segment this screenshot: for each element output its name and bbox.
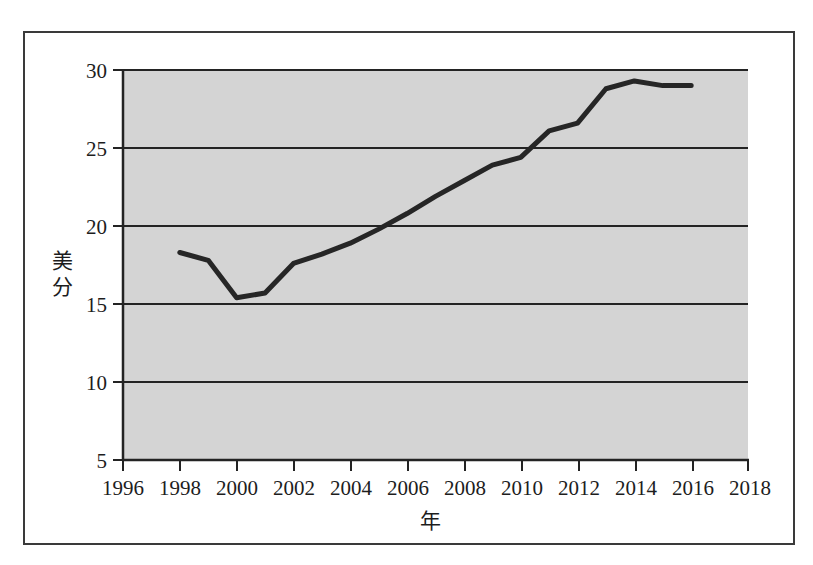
y-axis-title-char-1: 美 [52, 249, 73, 273]
y-axis-title: 美 分 [52, 249, 73, 299]
x-tick-label-2006: 2006 [387, 476, 429, 500]
y-tick-label-25: 25 [86, 137, 107, 161]
x-axis-tick-labels: 1996 1998 2000 2002 2004 2006 2008 2010 … [102, 476, 771, 500]
x-tick-label-2000: 2000 [216, 476, 258, 500]
line-chart: 30 25 20 15 10 5 1996 1998 2000 2002 200… [0, 0, 813, 565]
x-tick-label-2014: 2014 [615, 476, 658, 500]
x-axis-title: 年 [420, 509, 441, 533]
x-axis-ticks [123, 460, 748, 471]
y-tick-label-30: 30 [86, 59, 107, 83]
chart-figure: 30 25 20 15 10 5 1996 1998 2000 2002 200… [0, 0, 813, 565]
x-tick-label-2010: 2010 [501, 476, 543, 500]
x-tick-label-2018: 2018 [729, 476, 771, 500]
x-tick-label-2012: 2012 [558, 476, 600, 500]
x-tick-label-1998: 1998 [159, 476, 201, 500]
y-tick-label-20: 20 [86, 215, 107, 239]
y-axis-ticks [113, 70, 123, 460]
x-tick-label-2008: 2008 [444, 476, 486, 500]
y-axis-tick-labels: 30 25 20 15 10 5 [86, 59, 107, 473]
x-tick-label-1996: 1996 [102, 476, 144, 500]
y-tick-label-5: 5 [97, 449, 108, 473]
x-tick-label-2004: 2004 [330, 476, 373, 500]
x-tick-label-2016: 2016 [672, 476, 714, 500]
plot-background [123, 70, 748, 460]
y-axis-title-char-2: 分 [52, 275, 73, 299]
x-tick-label-2002: 2002 [273, 476, 315, 500]
y-tick-label-10: 10 [86, 371, 107, 395]
y-tick-label-15: 15 [86, 293, 107, 317]
